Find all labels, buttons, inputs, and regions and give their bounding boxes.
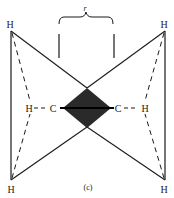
- atom-h-mid-right: H: [141, 103, 148, 114]
- atom-c-left: C: [50, 103, 57, 114]
- atom-c-right: C: [115, 103, 122, 114]
- bond-bottom-right-to-center: [87, 127, 165, 180]
- distance-brace: [59, 12, 113, 24]
- atom-h-top-right: H: [160, 19, 167, 30]
- distance-label: r: [83, 4, 87, 13]
- bond-top-right-to-center: [87, 31, 165, 88]
- atom-h-bottom-left: H: [7, 184, 14, 195]
- atom-h-top-left: H: [6, 19, 13, 30]
- molecular-diagram: r H H H H H H C C (c): [0, 0, 174, 198]
- figure-caption: (c): [84, 183, 93, 192]
- atom-h-mid-left: H: [25, 103, 32, 114]
- bond-top-left-to-center: [11, 31, 87, 88]
- atom-h-bottom-right: H: [160, 184, 167, 195]
- diagram-canvas: r H H H H H H C C (c): [0, 0, 174, 198]
- bond-bottom-left-to-center: [11, 127, 87, 180]
